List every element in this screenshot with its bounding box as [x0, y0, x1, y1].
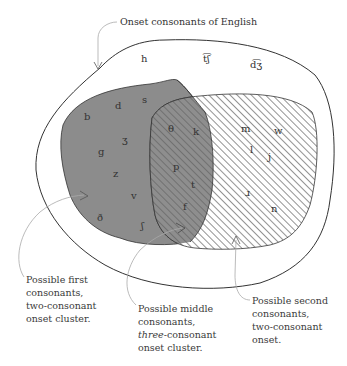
- segment: d: [115, 100, 122, 111]
- segment: v: [130, 190, 137, 201]
- segment: l: [250, 144, 253, 155]
- svg-text:consonants,: consonants,: [138, 316, 195, 327]
- segment: θ: [168, 123, 174, 134]
- title-label: Onset consonants of English: [120, 16, 257, 27]
- svg-text:two-consonant: two-consonant: [26, 300, 97, 311]
- svg-text:Possible second: Possible second: [252, 295, 328, 306]
- segment: w: [274, 125, 283, 136]
- segment: p: [173, 161, 179, 172]
- segment: s: [142, 94, 147, 105]
- segment: b: [84, 111, 90, 122]
- segment: k: [193, 126, 200, 137]
- svg-text:two-consonant: two-consonant: [252, 321, 323, 332]
- segment: t: [191, 179, 195, 190]
- segment: m: [241, 123, 251, 134]
- segment: ʒ: [122, 134, 128, 145]
- segment: n: [271, 203, 278, 214]
- svg-text:consonants,: consonants,: [26, 287, 83, 298]
- svg-text:Possible middle: Possible middle: [138, 303, 214, 314]
- segment: d͡ʒ: [250, 59, 262, 70]
- note-middle: Possible middle consonants, three-conson…: [138, 303, 217, 353]
- svg-text:consonants,: consonants,: [252, 308, 309, 319]
- svg-text:Possible first: Possible first: [26, 274, 88, 285]
- note-second: Possible second consonants, two-consonan…: [252, 295, 328, 345]
- onset-venn-diagram: Onset consonants of English h t͡ʃ d͡ʒ b …: [0, 0, 347, 366]
- svg-text:onset cluster.: onset cluster.: [26, 313, 90, 324]
- note-first: Possible first consonants, two-consonant…: [26, 274, 97, 324]
- svg-text:three-consonant: three-consonant: [138, 329, 217, 340]
- segment: j: [267, 151, 271, 162]
- segment: ð: [97, 212, 103, 223]
- segment: g: [98, 146, 105, 157]
- svg-text:onset cluster.: onset cluster.: [138, 342, 202, 353]
- segment: ɹ: [245, 187, 250, 198]
- segment: z: [113, 168, 118, 179]
- segment: h: [141, 53, 148, 64]
- svg-text:onset.: onset.: [252, 334, 281, 345]
